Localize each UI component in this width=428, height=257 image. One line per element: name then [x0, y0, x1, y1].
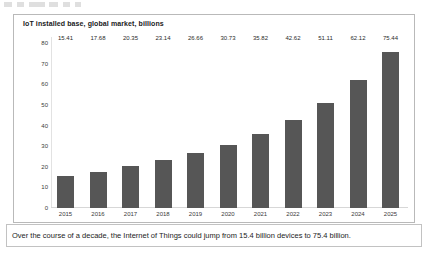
- bar: [382, 52, 399, 208]
- x-axis-tick: 2020: [221, 211, 234, 217]
- toolbar-chip: [63, 2, 70, 7]
- bar-value-label: 51.11: [318, 35, 333, 41]
- toolbar-chip: [17, 2, 24, 7]
- y-axis-tick: 30: [41, 143, 48, 149]
- bar-value-label: 30.73: [220, 35, 235, 41]
- x-axis-tick: 2025: [384, 211, 397, 217]
- x-axis-tick: 2024: [351, 211, 364, 217]
- cropped-toolbar-strip: [0, 0, 428, 11]
- bar-value-label: 17.68: [90, 35, 105, 41]
- chart-title: IoT installed base, global market, billi…: [23, 20, 164, 27]
- bar-slot: 23.142018: [155, 43, 172, 208]
- bar-slot: 35.822021: [252, 43, 269, 208]
- bar: [122, 166, 139, 208]
- caption-box: Over the course of a decade, the Interne…: [6, 224, 422, 247]
- bar-slot: 75.442025: [382, 43, 399, 208]
- bar: [57, 176, 74, 208]
- bar: [317, 103, 334, 208]
- toolbar-chip: [49, 2, 58, 7]
- x-axis-tick: 2018: [156, 211, 169, 217]
- y-axis-tick: 10: [41, 184, 48, 190]
- bar-series: 15.41201517.68201620.35201723.14201826.6…: [52, 43, 404, 208]
- toolbar-chip: [75, 2, 81, 7]
- bar-slot: 20.352017: [122, 43, 139, 208]
- x-axis-tick: 2016: [91, 211, 104, 217]
- chart-card: IoT installed base, global market, billi…: [13, 14, 415, 223]
- bar-slot: 26.662019: [187, 43, 204, 208]
- bar-slot: 42.622022: [285, 43, 302, 208]
- toolbar-chip: [4, 2, 12, 7]
- x-axis-tick: 2022: [286, 211, 299, 217]
- x-axis-tick: 2015: [59, 211, 72, 217]
- bar-value-label: 62.12: [350, 35, 365, 41]
- caption-text: Over the course of a decade, the Interne…: [7, 231, 351, 240]
- bar-value-label: 23.14: [155, 35, 170, 41]
- y-axis-tick: 20: [41, 164, 48, 170]
- x-axis-tick: 2019: [189, 211, 202, 217]
- bar-slot: 62.122024: [350, 43, 367, 208]
- bar-value-label: 26.66: [188, 35, 203, 41]
- bar-value-label: 35.82: [253, 35, 268, 41]
- bar-slot: 15.412015: [57, 43, 74, 208]
- x-axis-tick: 2023: [319, 211, 332, 217]
- bar-value-label: 75.44: [383, 35, 398, 41]
- y-axis-tick: 0: [45, 205, 48, 211]
- bar-value-label: 42.62: [285, 35, 300, 41]
- bar: [187, 153, 204, 208]
- bar: [90, 172, 107, 208]
- bar-value-label: 15.41: [58, 35, 73, 41]
- bar: [155, 160, 172, 208]
- bar: [350, 80, 367, 208]
- bar-value-label: 20.35: [123, 35, 138, 41]
- y-axis-tick: 50: [41, 102, 48, 108]
- y-axis-tick: 80: [41, 40, 48, 46]
- bar-slot: 30.732020: [220, 43, 237, 208]
- y-axis-tick: 60: [41, 81, 48, 87]
- bar: [220, 145, 237, 208]
- bar-slot: 51.112023: [317, 43, 334, 208]
- bar: [252, 134, 269, 208]
- y-axis-tick: 40: [41, 123, 48, 129]
- bar: [285, 120, 302, 208]
- bar-slot: 17.682016: [90, 43, 107, 208]
- toolbar-chip: [29, 2, 45, 7]
- x-axis-tick: 2017: [124, 211, 137, 217]
- plot-area: 80706050403020100 15.41201517.68201620.3…: [52, 43, 404, 208]
- x-axis-tick: 2021: [254, 211, 267, 217]
- y-axis-tick: 70: [41, 61, 48, 67]
